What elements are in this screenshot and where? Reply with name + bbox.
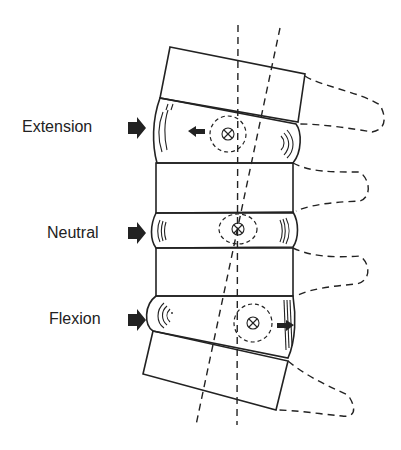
bulge-lines-extension-left: [159, 112, 163, 152]
disc-neutral: [152, 212, 298, 248]
bulge-lines-flexion-left: [158, 303, 164, 328]
label-flexion: Flexion: [49, 310, 101, 328]
spinous-process-middle: [293, 163, 368, 211]
extension-pointer-icon: [128, 117, 146, 139]
disc-extension: [154, 98, 301, 163]
arrow-left-icon: [188, 126, 205, 137]
flexion-pointer-icon: [128, 309, 146, 331]
label-extension: Extension: [22, 118, 92, 136]
compression-lines-extension-right: [281, 136, 284, 150]
vertical-axis-line: [237, 25, 238, 425]
bulge-lines-neutral-right: [280, 220, 282, 242]
vertebra-top: [160, 47, 305, 122]
vertebra-middle: [156, 163, 293, 213]
spinous-process-top: [300, 76, 384, 132]
disc-flexion: [147, 296, 295, 358]
spine-diagram: Extension Neutral Flexion: [0, 0, 401, 450]
spinous-process-lower-middle: [293, 248, 368, 296]
label-neutral: Neutral: [47, 224, 99, 242]
neutral-pointer-icon: [128, 222, 146, 244]
spinous-process-bottom: [276, 361, 354, 416]
bulge-lines-neutral-left: [158, 220, 160, 242]
